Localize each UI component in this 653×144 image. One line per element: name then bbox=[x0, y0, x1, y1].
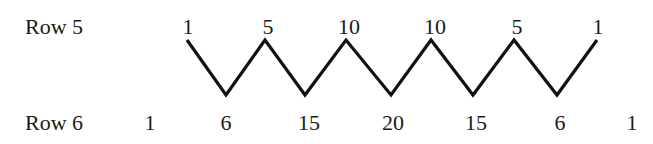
zigzag-connector-lines bbox=[0, 0, 653, 144]
sum-lines bbox=[187, 40, 597, 95]
